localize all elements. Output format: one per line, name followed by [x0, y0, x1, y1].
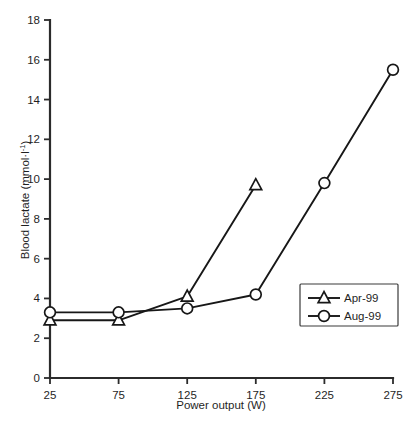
data-point-circle-marker — [319, 311, 330, 322]
y-tick-label: 4 — [34, 292, 41, 304]
data-point-circle-marker — [250, 289, 261, 300]
y-tick-label: 0 — [34, 372, 40, 384]
y-tick-label: 18 — [27, 14, 40, 26]
y-tick-label: 6 — [34, 253, 40, 265]
data-point-circle-marker — [182, 303, 193, 314]
series-apr-99 — [44, 179, 262, 325]
y-tick-label: 2 — [34, 332, 40, 344]
y-tick-label: 16 — [27, 54, 40, 66]
series-aug-99 — [45, 64, 399, 317]
x-tick-label: 75 — [112, 389, 125, 401]
x-tick-label: 25 — [44, 389, 57, 401]
data-point-circle-marker — [45, 307, 56, 318]
data-point-circle-marker — [113, 307, 124, 318]
y-axis-title-superscript: -1 — [18, 145, 27, 152]
y-tick-label: 14 — [27, 94, 40, 106]
x-tick-label: 275 — [383, 389, 402, 401]
chart-container: 024681012141618 2575125175225275 Power o… — [0, 0, 414, 426]
x-axis-title: Power output (W) — [176, 399, 266, 411]
legend[interactable]: Apr-99Aug-99 — [300, 284, 398, 326]
svg-text:Blood lactate (mmol·l-1): Blood lactate (mmol·l-1) — [18, 141, 31, 260]
y-axis-title-tail: ) — [19, 141, 31, 145]
legend-label: Aug-99 — [344, 310, 381, 322]
legend-label: Apr-99 — [344, 292, 379, 304]
y-tick-label: 8 — [34, 213, 40, 225]
data-point-circle-marker — [319, 178, 330, 189]
data-point-circle-marker — [388, 64, 399, 75]
lactate-power-line-chart: 024681012141618 2575125175225275 Power o… — [0, 0, 414, 426]
x-tick-label: 225 — [315, 389, 334, 401]
data-point-triangle-marker — [250, 179, 262, 190]
data-point-triangle-marker — [181, 290, 193, 301]
y-axis-title-main: Blood lactate (mmol·l — [19, 151, 31, 259]
y-axis-title: Blood lactate (mmol·l-1) — [18, 141, 31, 260]
series-line — [50, 70, 393, 313]
